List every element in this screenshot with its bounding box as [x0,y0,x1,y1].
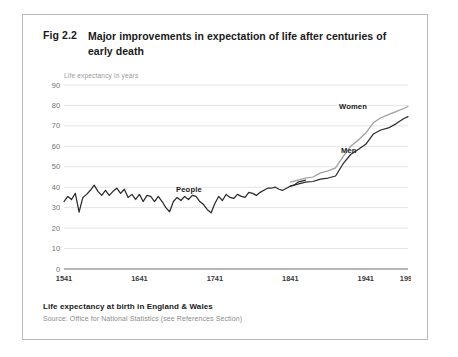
svg-text:20: 20 [52,224,60,233]
footer-source: Source: Office for National Statistics (… [43,315,409,322]
svg-text:1997: 1997 [400,274,411,283]
series-label-people: People [176,185,202,194]
series-label-women: Women [339,102,367,111]
svg-text:10: 10 [52,244,60,253]
svg-text:1741: 1741 [207,274,223,283]
chart-plot-area: 0102030405060708090154116411741184119411… [43,81,411,293]
svg-text:0: 0 [56,265,60,274]
svg-text:1541: 1541 [56,274,72,283]
series-label-men: Men [341,146,357,155]
svg-text:1841: 1841 [282,274,298,283]
svg-text:80: 80 [52,101,60,110]
svg-text:50: 50 [52,162,60,171]
line-chart: 0102030405060708090154116411741184119411… [43,81,411,293]
svg-text:60: 60 [52,142,60,151]
figure-title: Major improvements in expectation of lif… [88,29,409,59]
footer-title: Life expectancy at birth in England & Wa… [43,302,409,311]
figure-card: Fig 2.2 Major improvements in expectatio… [22,14,428,340]
svg-text:70: 70 [52,121,60,130]
figure-header: Fig 2.2 Major improvements in expectatio… [43,29,409,59]
y-axis-caption: Life expectancy in years [64,72,138,79]
svg-text:1641: 1641 [131,274,147,283]
svg-text:40: 40 [52,183,60,192]
figure-number: Fig 2.2 [43,29,77,41]
figure-footer: Life expectancy at birth in England & Wa… [43,302,409,322]
svg-text:1941: 1941 [358,274,374,283]
svg-text:90: 90 [52,81,60,90]
svg-text:30: 30 [52,203,60,212]
